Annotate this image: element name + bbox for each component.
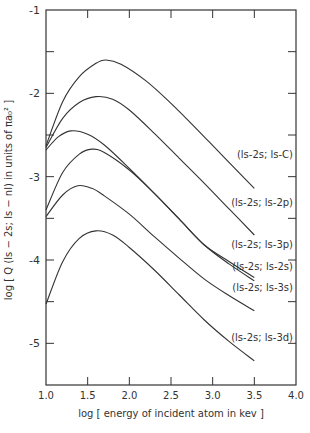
curve-label: (ls-2s; ls-2s) bbox=[232, 261, 293, 272]
x-axis-title: log [ energy of incident atom in kev ] bbox=[78, 408, 264, 419]
y-axis-title: log [ Q (ls − 2s; ls − nl) in units of π… bbox=[3, 100, 14, 300]
x-tick-label: 3.5 bbox=[246, 390, 262, 401]
y-tick-label: -5 bbox=[29, 337, 40, 350]
curve-1 bbox=[46, 60, 254, 188]
curve-label: (ls-2s; ls-3p) bbox=[231, 239, 293, 250]
collision-cross-section-chart: 1.01.52.02.53.03.54.0 -1-2-3-4-5 (ls-2s;… bbox=[0, 0, 310, 433]
curve-4 bbox=[46, 149, 254, 281]
y-tick-label: -4 bbox=[29, 254, 40, 267]
x-tick-label: 1.0 bbox=[38, 390, 54, 401]
x-tick-label: 3.0 bbox=[205, 390, 221, 401]
y-tick-label: -1 bbox=[29, 4, 40, 17]
curve-2 bbox=[46, 97, 254, 236]
x-tick-label: 2.0 bbox=[121, 390, 137, 401]
x-tick-label: 1.5 bbox=[80, 390, 96, 401]
curve-5 bbox=[46, 186, 254, 311]
curve-label: (ls-2s; ls-3s) bbox=[232, 282, 293, 293]
y-tick-label: -3 bbox=[29, 171, 40, 184]
curves bbox=[46, 60, 254, 361]
y-axis-ticks: -1-2-3-4-5 bbox=[29, 4, 296, 350]
curve-label: (ls-2s; ls-3d) bbox=[231, 332, 293, 343]
x-tick-label: 2.5 bbox=[163, 390, 179, 401]
curve-6 bbox=[46, 231, 254, 361]
curve-3 bbox=[46, 131, 254, 278]
curve-label: (ls-2s; ls-2p) bbox=[231, 197, 293, 208]
y-tick-label: -2 bbox=[29, 87, 40, 100]
x-tick-label: 4.0 bbox=[288, 390, 304, 401]
curve-label: (ls-2s; ls-C) bbox=[237, 149, 293, 160]
curve-labels: (ls-2s; ls-C)(ls-2s; ls-2p)(ls-2s; ls-3p… bbox=[231, 149, 293, 343]
